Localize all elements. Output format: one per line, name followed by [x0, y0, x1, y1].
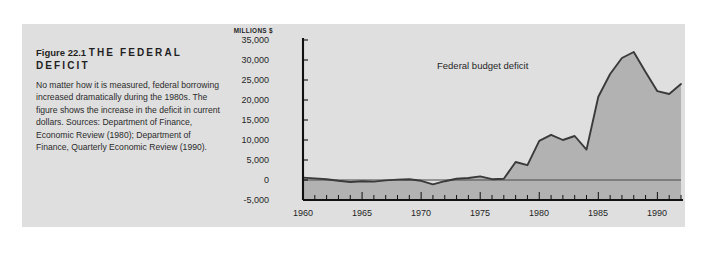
- plot-svg: [221, 24, 685, 227]
- figure-panel: Figure 22.1 THE FEDERAL DEFICIT No matte…: [22, 24, 685, 227]
- decorative-rule-top: [0, 0, 668, 11]
- figure-caption-block: Figure 22.1 THE FEDERAL DEFICIT No matte…: [36, 46, 221, 153]
- figure-caption-text: No matter how it is measured, federal bo…: [36, 79, 221, 153]
- deficit-area-fill: [303, 52, 681, 200]
- deficit-chart: MILLIONS $ 35,000 30,000 25,000 20,000 1…: [221, 24, 685, 227]
- plot-group: [303, 38, 683, 200]
- decorative-rule-bottom: [0, 11, 668, 22]
- figure-title: Figure 22.1 THE FEDERAL DEFICIT: [36, 46, 221, 72]
- figure-number: Figure 22.1: [36, 47, 86, 58]
